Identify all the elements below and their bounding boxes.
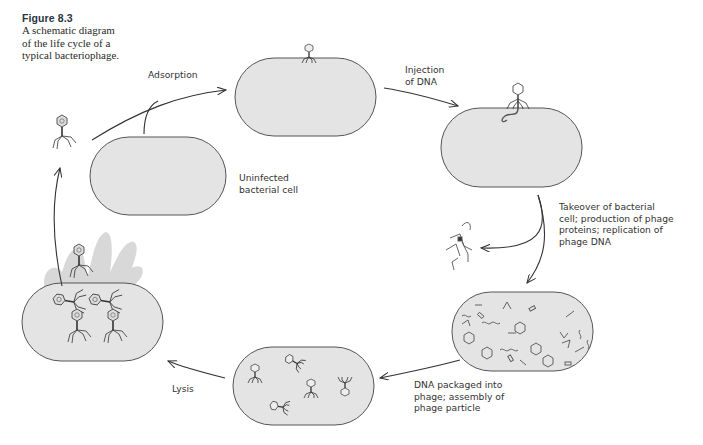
label-packaged: DNA packaged into phage; assembly of pha…	[414, 379, 504, 414]
label-takeover: Takeover of bacterial cell; production o…	[559, 201, 674, 247]
arrow-branch-from-uninfected	[144, 101, 158, 134]
label-uninfected: Uninfected bacterial cell	[239, 172, 298, 195]
label-packaged-line2: phage; assembly of	[414, 391, 504, 403]
arrow-lysis	[168, 361, 225, 378]
label-takeover-line1: Takeover of bacterial	[559, 201, 674, 213]
arrow-to-replication	[527, 195, 545, 283]
assembly-cell	[233, 347, 374, 425]
figure-number: Figure 8.3	[22, 12, 162, 24]
arrow-injection	[384, 88, 458, 106]
label-adsorption: Adsorption	[148, 69, 198, 81]
label-packaged-line3: phage particle	[414, 402, 504, 414]
figure-caption: Figure 8.3 A schematic diagram of the li…	[22, 12, 162, 62]
label-injection: Injection of DNA	[405, 64, 444, 87]
caption-line-3: typical bacteriophage.	[22, 49, 162, 62]
arrow-to-assembly	[380, 360, 460, 378]
label-lysis: Lysis	[172, 383, 194, 395]
label-injection-line1: Injection	[405, 64, 444, 76]
label-uninfected-line2: bacterial cell	[239, 184, 298, 196]
uninfected-cell	[90, 137, 226, 215]
label-injection-line2: of DNA	[405, 76, 444, 88]
arrow-to-adsorption	[92, 90, 226, 140]
injection-cell	[441, 108, 582, 187]
label-takeover-line3: proteins; replication of	[559, 224, 674, 236]
replication-cell	[452, 292, 593, 371]
label-packaged-line1: DNA packaged into	[414, 379, 504, 391]
caption-line-2: of the life cycle of a	[22, 37, 162, 50]
adsorption-cell	[235, 58, 376, 136]
arrow-to-defective-phage	[481, 195, 542, 248]
caption-line-1: A schematic diagram	[22, 24, 162, 37]
phage-parts-icon	[446, 223, 472, 270]
label-takeover-line4: phage DNA	[559, 236, 674, 248]
free-phage-icon	[53, 115, 76, 149]
label-takeover-line2: cell; production of phage	[559, 213, 674, 225]
label-uninfected-line1: Uninfected	[239, 172, 298, 184]
bacteriophage-life-cycle-diagram: Figure 8.3 A schematic diagram of the li…	[0, 0, 703, 445]
